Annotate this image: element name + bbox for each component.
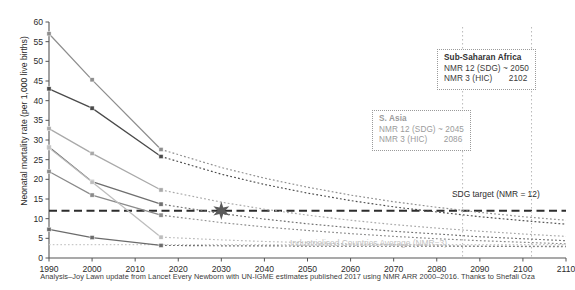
sdg-target-label: SDG target (NMR = 12) — [452, 189, 540, 199]
series-7-marker — [90, 235, 94, 239]
annotation-row-value: 2102 — [509, 74, 528, 85]
series-7-marker — [159, 243, 163, 247]
y-tick-label: 15 — [33, 194, 43, 204]
annotation-row: NMR 3 (HIC) 2086 — [379, 135, 464, 146]
series-3-marker — [159, 188, 163, 192]
y-axis-label: Neonatal mortality rate (per 1,000 live … — [19, 1, 29, 241]
annotation-south-asia: S. Asia NMR 12 (SDG) ~ 2045 NMR 3 (HIC) … — [372, 110, 471, 151]
series-6-marker — [47, 146, 51, 150]
series-2-marker — [159, 154, 163, 158]
series-2-marker — [90, 106, 94, 110]
figure-caption: Analysis–Joy Lawn update from Lancet Eve… — [0, 272, 575, 281]
annotation-row: NMR 12 (SDG) ~ 2050 — [444, 64, 529, 75]
series-5-marker — [47, 169, 51, 173]
series-5-line — [49, 171, 161, 215]
series-4-marker — [159, 202, 163, 206]
y-tick-label: 35 — [33, 115, 43, 125]
series-5-marker — [90, 193, 94, 197]
y-tick-label: 40 — [33, 96, 43, 106]
y-tick-label: 45 — [33, 76, 43, 86]
annotation-title: S. Asia — [379, 114, 464, 125]
series-7-marker — [47, 227, 51, 231]
series-3-marker — [47, 126, 51, 130]
y-tick-label: 5 — [38, 233, 43, 243]
series-2-line — [49, 89, 161, 157]
observed-series-layer — [47, 32, 163, 248]
series-1-marker — [159, 147, 163, 151]
annotation-row: NMR 12 (SDG) ~ 2045 — [379, 125, 464, 136]
annotation-title: Sub-Saharan Africa — [444, 53, 529, 64]
y-tick-label: 0 — [38, 253, 43, 263]
annotation-row: NMR 3 (HIC) 2102 — [444, 74, 529, 85]
chart-container: 0510152025303540455055601990200020102020… — [0, 0, 575, 290]
series-1-line — [49, 34, 161, 150]
series-5-marker — [159, 213, 163, 217]
series-1-marker — [47, 32, 51, 36]
series-4-line — [49, 147, 161, 204]
y-tick-label: 20 — [33, 174, 43, 184]
line-chart-svg: 0510152025303540455055601990200020102020… — [0, 0, 575, 290]
y-tick-label: 25 — [33, 155, 43, 165]
y-tick-label: 10 — [33, 214, 43, 224]
industrialised-average-label: Industrialised Countries Average (NMR=3) — [290, 238, 447, 248]
y-tick-label: 30 — [33, 135, 43, 145]
series-3-marker — [90, 151, 94, 155]
series-1-marker — [90, 78, 94, 82]
y-tick-label: 50 — [33, 56, 43, 66]
series-6-line — [49, 148, 161, 237]
series-7-line — [49, 229, 161, 245]
annotation-sub-saharan-africa: Sub-Saharan Africa NMR 12 (SDG) ~ 2050 N… — [437, 49, 536, 90]
annotation-row-label: NMR 3 (HIC) — [444, 74, 492, 83]
y-tick-label: 55 — [33, 37, 43, 47]
series-2-marker — [47, 87, 51, 91]
annotation-row-label: NMR 3 (HIC) — [379, 135, 427, 144]
y-tick-label: 60 — [33, 17, 43, 27]
annotation-row-value: 2086 — [444, 135, 463, 146]
series-6-marker — [90, 180, 94, 184]
series-6-marker — [159, 235, 163, 239]
